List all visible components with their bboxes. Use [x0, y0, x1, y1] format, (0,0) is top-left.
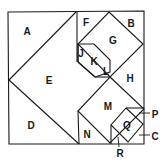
dissection-diagram: ABCDEFGHJKLMNPQR: [0, 0, 166, 164]
region-label-r: R: [116, 148, 124, 159]
region-label-n: N: [83, 129, 90, 140]
region-label-a: A: [23, 26, 30, 37]
region-label-q: Q: [123, 120, 131, 131]
region-label-g: G: [109, 35, 117, 46]
region-label-m: M: [104, 101, 112, 112]
region-label-c: C: [151, 131, 158, 142]
region-label-k: K: [90, 56, 98, 67]
region-label-h: H: [126, 73, 133, 84]
region-label-d: D: [27, 120, 34, 131]
region-label-p: P: [152, 109, 159, 120]
region-label-e: E: [46, 75, 53, 86]
region-label-l: L: [103, 66, 109, 77]
region-label-f: F: [83, 17, 89, 28]
region-label-b: B: [127, 18, 134, 29]
region-label-j: J: [78, 48, 84, 59]
